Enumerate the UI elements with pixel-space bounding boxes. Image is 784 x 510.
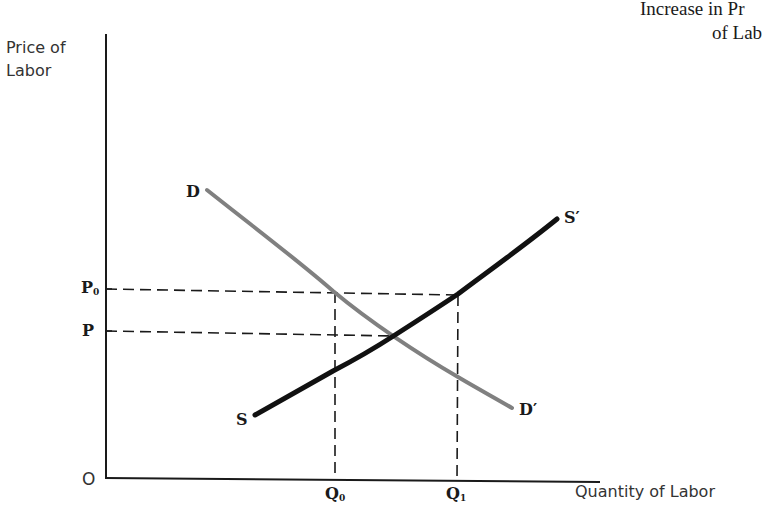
tick-label-p0: P0: [81, 278, 99, 297]
demand-end-label: D′: [519, 400, 537, 419]
supply-curve: [255, 219, 557, 415]
guide-lines: [106, 289, 458, 481]
tick-label-q0: Q0: [325, 484, 345, 503]
origin-label: O: [82, 469, 95, 489]
supply-end-label: S′: [564, 208, 580, 227]
x-axis: [105, 478, 600, 482]
tick-label-p0-sub: 0: [93, 287, 99, 297]
tick-label-q0-main: Q: [325, 484, 339, 503]
tick-label-p0-main: P: [81, 278, 93, 297]
guide-q1: [457, 295, 458, 481]
supply-demand-chart: [0, 0, 784, 510]
tick-label-q1-sub: 1: [460, 493, 466, 503]
tick-label-q0-sub: 0: [339, 493, 345, 503]
tick-label-p: P: [82, 321, 94, 340]
tick-label-p-main: P: [82, 321, 94, 340]
guide-p: [106, 331, 395, 336]
guide-p0: [106, 289, 458, 295]
x-axis-label: Quantity of Labor: [575, 482, 715, 501]
tick-label-q1: Q1: [446, 484, 466, 503]
demand-start-label: D: [186, 182, 200, 201]
tick-label-q1-main: Q: [446, 484, 460, 503]
supply-start-label: S: [236, 410, 248, 429]
demand-curve: [207, 190, 512, 408]
